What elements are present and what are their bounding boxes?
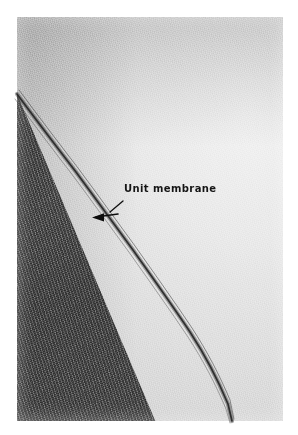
unit-membrane-label: Unit membrane (124, 183, 217, 194)
unit-membrane-line-outer (17, 94, 232, 421)
leader-line (110, 201, 123, 212)
unit-membrane-line-group (15, 90, 234, 423)
annotation-overlay (0, 0, 298, 435)
unit-membrane-line-core (17, 94, 232, 421)
figure-container: Unit membrane (0, 0, 298, 435)
unit-membrane-line-outer-leaflet (15, 99, 230, 423)
